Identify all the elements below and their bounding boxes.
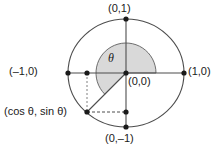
point-cosine-foot bbox=[84, 70, 89, 75]
point-right bbox=[181, 70, 186, 75]
point-top bbox=[123, 16, 128, 21]
label-point-left: (–1,0) bbox=[9, 66, 38, 77]
unit-circle-diagram: (0,1) (–1,0) (1,0) (0,–1) (0,0) (cos θ, … bbox=[0, 0, 222, 152]
label-point-bottom: (0,–1) bbox=[105, 133, 134, 144]
label-point-top: (0,1) bbox=[108, 3, 131, 14]
label-point-terminal: (cos θ, sin θ) bbox=[4, 106, 67, 117]
point-sine-foot bbox=[123, 109, 128, 114]
label-angle-theta: θ bbox=[108, 52, 114, 64]
point-left bbox=[65, 70, 70, 75]
point-terminal bbox=[84, 109, 89, 114]
label-point-origin: (0,0) bbox=[128, 76, 151, 87]
label-point-right: (1,0) bbox=[188, 66, 211, 77]
point-bottom bbox=[123, 124, 128, 129]
